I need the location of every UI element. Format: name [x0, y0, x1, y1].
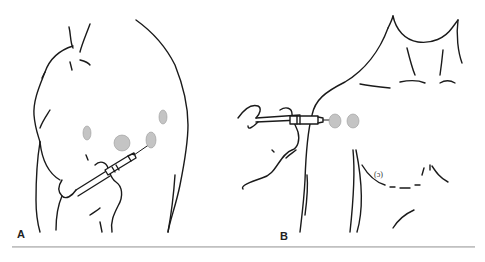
panel-label-b: B — [280, 230, 288, 242]
panel-a-drawing — [34, 20, 188, 232]
chest-mark: (ɔ) — [374, 170, 383, 179]
figure-illustration: (ɔ) — [0, 0, 485, 262]
figure-divider — [12, 246, 475, 248]
injection-site-a4 — [159, 110, 167, 124]
injection-site-b1 — [329, 114, 341, 128]
injection-site-a3 — [146, 132, 156, 148]
medical-figure: (ɔ) A B — [0, 0, 485, 262]
injection-site-a2 — [114, 135, 130, 151]
panel-label-a: A — [17, 228, 25, 240]
injection-site-b2 — [347, 114, 359, 128]
injection-site-a1 — [83, 126, 91, 140]
